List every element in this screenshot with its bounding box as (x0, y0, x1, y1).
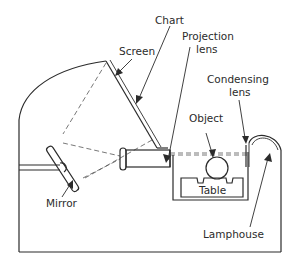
label-condensing-lens-1: Condensing (207, 73, 269, 85)
label-object: Object (189, 112, 223, 124)
projector-diagram: Screen Chart Projection lens Condensing … (0, 0, 297, 268)
housing-curved-top (19, 61, 106, 120)
label-projection-lens-2: lens (196, 43, 218, 55)
projection-lens (120, 148, 170, 170)
screen (106, 60, 168, 148)
label-mirror: Mirror (46, 197, 78, 209)
label-table: Table (198, 184, 226, 196)
label-projection-lens-1: Projection (182, 30, 234, 42)
label-screen: Screen (119, 45, 155, 57)
label-condensing-lens-2: lens (229, 86, 251, 98)
lamphouse (246, 135, 281, 167)
label-lamphouse: Lamphouse (203, 228, 264, 240)
labels: Screen Chart Projection lens Condensing … (46, 14, 269, 240)
object (206, 157, 228, 179)
label-chart: Chart (155, 14, 184, 26)
